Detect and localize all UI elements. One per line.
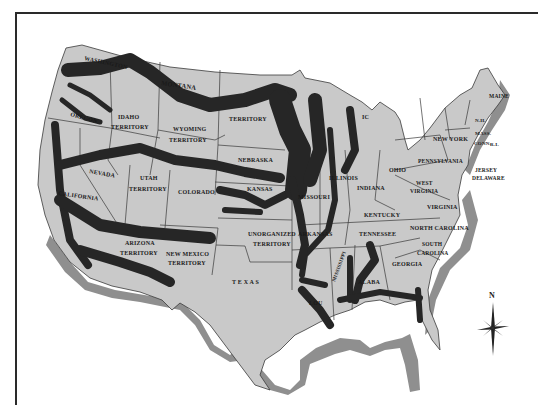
label-missouri: MISSOURI — [298, 194, 330, 200]
label-nebraska: NEBRASKA — [238, 157, 273, 163]
label-utah: UTAH — [140, 175, 158, 181]
label-new-jersey: JERSEY — [475, 167, 497, 173]
label-west-virginia-2: VIRGINIA — [410, 188, 438, 194]
label-new-mexico: NEW MEXICO — [166, 251, 209, 257]
label-north-carolina: NORTH CAROLINA — [410, 225, 469, 231]
label-mass: MASS. — [475, 131, 492, 136]
label-west-virginia: WEST — [416, 180, 433, 186]
label-maine: MAINE — [489, 93, 509, 99]
label-conn: CONN. — [474, 141, 492, 146]
label-unorganized: UNORGANIZED — [248, 231, 296, 237]
label-kentucky: KENTUCKY — [364, 212, 401, 218]
label-colorado: COLORADO — [178, 189, 215, 195]
compass-rose-icon: N — [477, 291, 509, 356]
label-illinois: ILLINOIS — [329, 175, 358, 181]
label-arizona-territory: TERRITORY — [120, 250, 158, 256]
label-unorganized-territory: TERRITORY — [253, 241, 291, 247]
label-alabama: ALABA — [358, 279, 380, 285]
label-delaware: DELAWARE — [472, 175, 505, 181]
label-wyoming: WYOMING — [173, 126, 207, 132]
label-virginia: VIRGINIA — [427, 204, 458, 210]
label-ri: R.I. — [490, 142, 499, 147]
label-louisiana: LOU — [309, 300, 323, 306]
label-indiana: INDIANA — [357, 185, 385, 191]
label-georgia: GEORGIA — [392, 261, 423, 267]
label-south-carolina: SOUTH — [422, 241, 443, 247]
label-arkansas: ARKANSAS — [298, 231, 333, 237]
label-idaho: IDAHO — [118, 114, 139, 120]
label-arizona: ARIZONA — [125, 240, 155, 246]
label-nh: N.H. — [475, 118, 486, 123]
historical-us-map: WASHINGTON OREGON CALIFORNIA NEVADA IDAH… — [0, 0, 538, 405]
label-kansas: KANSAS — [247, 186, 273, 192]
label-idaho-territory: TERRITORY — [111, 124, 149, 130]
label-michigan: IC — [362, 114, 369, 120]
label-ohio: OHIO — [389, 167, 406, 173]
label-utah-territory: TERRITORY — [129, 186, 167, 192]
label-south-carolina-2: CAROLINA — [417, 250, 449, 256]
label-texas: T E X A S — [232, 279, 259, 285]
compass-north-label: N — [489, 291, 495, 300]
label-pennsylvania: PENNSYLVANIA — [418, 158, 463, 164]
label-tennessee: TENNESSEE — [359, 231, 396, 237]
label-wyoming-territory: TERRITORY — [169, 137, 207, 143]
label-new-mexico-territory: TERRITORY — [168, 260, 206, 266]
label-dakota-territory: TERRITORY — [229, 116, 267, 122]
label-new-york: NEW YORK — [433, 136, 468, 142]
